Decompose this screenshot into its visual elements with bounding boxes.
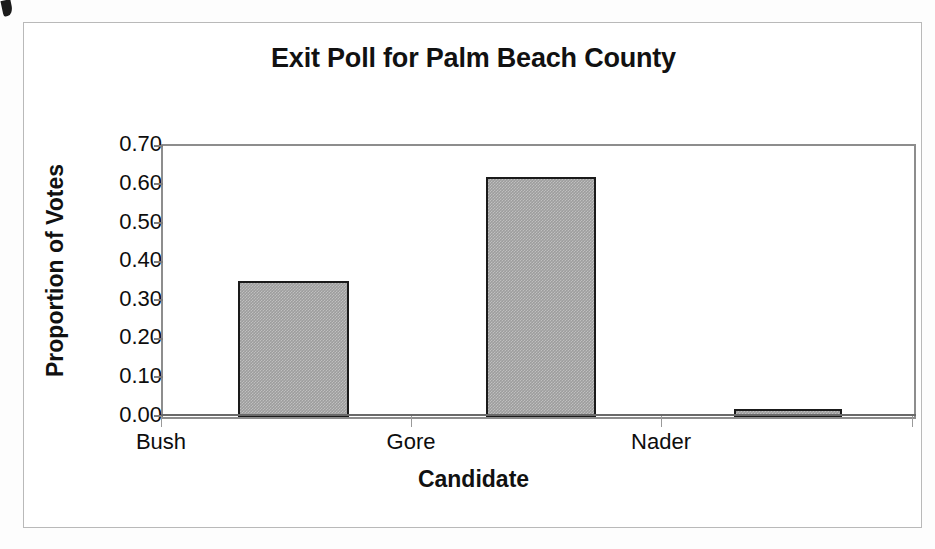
chart-frame: Exit Poll for Palm Beach County Proporti… <box>23 22 922 528</box>
x-category-label-bush: Bush <box>41 429 281 455</box>
x-tick-mark <box>411 416 412 427</box>
y-tick-label: 0.30 <box>66 288 162 310</box>
y-tick-label: 0.40 <box>66 249 162 271</box>
y-tick-mark <box>154 299 163 301</box>
y-tick-label: 0.20 <box>66 326 162 348</box>
y-tick-mark <box>154 376 163 378</box>
x-tick-mark <box>912 416 913 427</box>
y-tick-label: 0.60 <box>66 172 162 194</box>
y-tick-mark <box>154 261 163 263</box>
x-category-label-gore: Gore <box>291 429 531 455</box>
y-tick-label: 0.50 <box>66 211 162 233</box>
y-axis-title: Proportion of Votes <box>42 141 69 401</box>
x-tick-mark <box>161 416 162 427</box>
y-tick-label: 0.00 <box>66 404 162 426</box>
chart-title: Exit Poll for Palm Beach County <box>24 43 923 74</box>
y-tick-mark <box>154 183 163 185</box>
plot-area <box>161 144 916 419</box>
y-tick-label: 0.70 <box>66 133 162 155</box>
x-category-label-nader: Nader <box>541 429 781 455</box>
y-tick-mark <box>154 222 163 224</box>
y-tick-label: 0.10 <box>66 365 162 387</box>
x-axis-title: Candidate <box>24 466 923 493</box>
y-tick-mark <box>154 145 163 147</box>
y-tick-mark <box>154 338 163 340</box>
bar-bush <box>238 281 349 417</box>
x-axis-baseline <box>161 414 916 416</box>
bar-gore <box>486 177 596 417</box>
x-tick-mark <box>661 416 662 427</box>
